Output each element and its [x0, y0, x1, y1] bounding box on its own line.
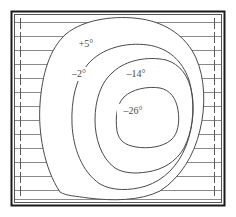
- contour-label-text: –2°: [71, 68, 86, 79]
- contour-label-text: –26°: [123, 105, 143, 116]
- contour-label-minus-14: –14°: [120, 67, 152, 81]
- contour-label-minus-26: –26°: [117, 104, 149, 118]
- contour-label-text: –14°: [126, 68, 146, 79]
- contour-label-minus-2: –2°: [66, 67, 92, 81]
- contour-map-figure: +5° –2° –14° –26°: [0, 0, 236, 217]
- contour-label-plus-5: +5°: [72, 37, 100, 51]
- contour-label-text: +5°: [79, 38, 94, 49]
